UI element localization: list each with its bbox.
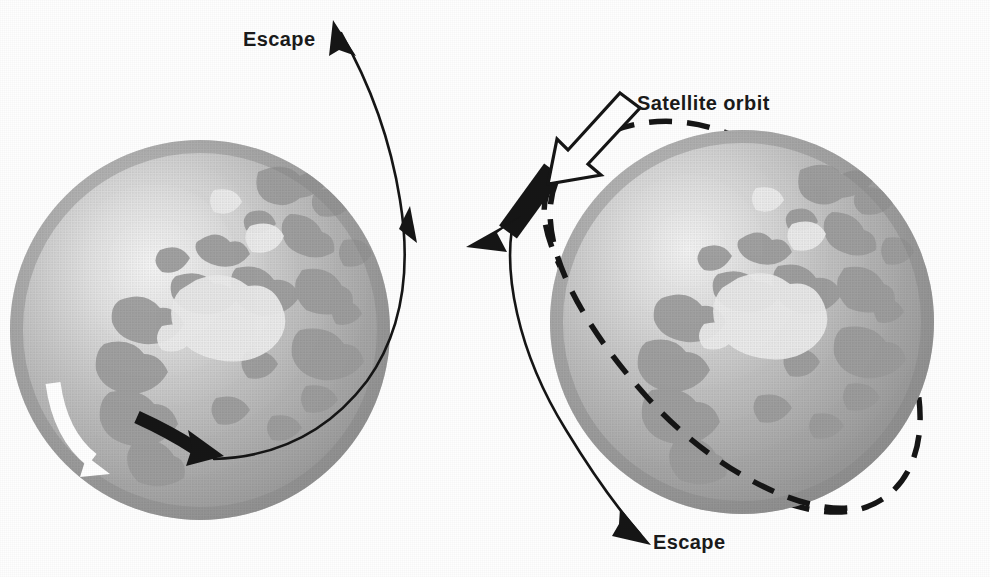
satellite-orbit-label: Satellite orbit (637, 92, 770, 115)
earth-globe-right (548, 128, 938, 518)
earth-globe-left (10, 140, 390, 520)
escape-label-left: Escape (243, 28, 315, 51)
figure-page: Escape Satellite orbit Escape (0, 0, 990, 577)
figure-canvas (0, 0, 990, 577)
satellite-orbit-panel (466, 93, 938, 545)
escape-panel (10, 20, 417, 520)
escape-label-right: Escape (653, 531, 725, 554)
